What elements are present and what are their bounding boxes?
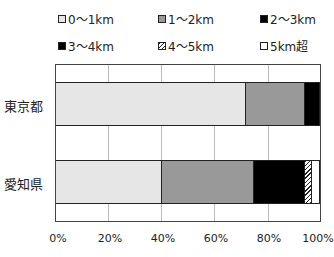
- bar-aichi: [56, 160, 320, 204]
- bar-segment: [56, 82, 246, 126]
- legend-swatch-icon: [260, 15, 268, 23]
- bar-segment: [246, 82, 305, 126]
- legend-label: 5km超: [270, 37, 308, 54]
- legend-label: 4〜5km: [168, 37, 214, 54]
- x-tick: 0%: [49, 232, 66, 245]
- bar-tokyo: [56, 82, 320, 126]
- legend-item-2-3km: 2〜3km: [260, 10, 316, 27]
- x-tick: 80%: [257, 232, 281, 245]
- chart-legend: 0〜1km 1〜2km 2〜3km 3〜4km 4〜5km 5km超: [0, 0, 333, 60]
- legend-swatch-icon: [58, 42, 66, 50]
- x-tick: 100%: [302, 232, 333, 245]
- legend-swatch-icon: [260, 42, 268, 50]
- legend-item-0-1km: 0〜1km: [58, 10, 114, 27]
- legend-swatch-icon: [158, 15, 166, 23]
- y-label-tokyo: 東京都: [4, 96, 43, 115]
- legend-swatch-icon: [58, 15, 66, 23]
- bar-segment: [305, 82, 320, 126]
- legend-label: 1〜2km: [168, 10, 214, 27]
- legend-label: 0〜1km: [68, 10, 114, 27]
- legend-swatch-icon: [158, 42, 166, 50]
- legend-label: 3〜4km: [68, 37, 114, 54]
- legend-item-5km-over: 5km超: [260, 37, 308, 54]
- legend-label: 2〜3km: [270, 10, 316, 27]
- x-tick: 60%: [204, 232, 228, 245]
- legend-item-1-2km: 1〜2km: [158, 10, 214, 27]
- bar-segment: [56, 160, 162, 204]
- legend-item-4-5km: 4〜5km: [158, 37, 214, 54]
- bar-segment: [312, 160, 320, 204]
- bar-segment: [254, 160, 305, 204]
- legend-item-3-4km: 3〜4km: [58, 37, 114, 54]
- bar-segment: [162, 160, 254, 204]
- plot-area: [55, 64, 321, 222]
- y-label-aichi: 愛知県: [4, 174, 43, 193]
- x-tick: 40%: [151, 232, 175, 245]
- x-tick: 20%: [98, 232, 122, 245]
- bar-segment: [305, 160, 312, 204]
